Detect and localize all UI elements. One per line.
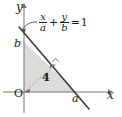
perpendicular-distance-label: 4 [42,72,50,83]
origin-label: O [14,88,23,99]
fraction-y-over-b: y b [60,12,68,33]
fraction-numerator-x: x [39,12,47,22]
plus-operator: + [49,17,58,28]
equals-sign: = [71,17,80,28]
line-equation: x a + y b = 1 [38,12,88,33]
right-angle-marker [52,58,59,62]
y-intercept-label: b [14,38,21,49]
geometry-figure: y x a b O 4 x a + y b = 1 [0,0,122,117]
fraction-x-over-a: x a [39,12,47,33]
fraction-denominator-a: a [39,23,47,33]
x-intercept-label: a [72,93,79,104]
x-axis-label: x [107,89,114,101]
equation-right-hand-side: 1 [81,17,88,28]
fraction-numerator-y: y [61,12,69,22]
fraction-denominator-b: b [60,23,68,33]
y-axis-label: y [16,1,23,13]
